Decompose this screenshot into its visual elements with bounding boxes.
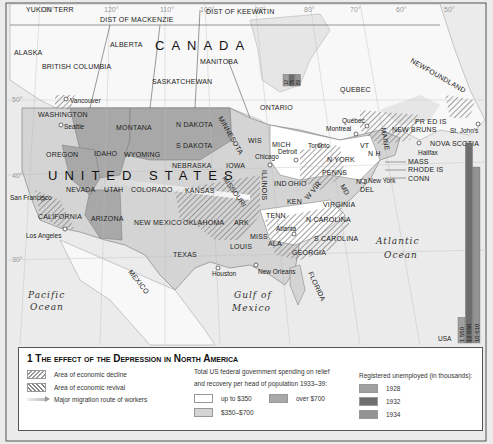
region-label: MANITOBA — [200, 58, 238, 65]
state-label: TENN — [266, 212, 286, 219]
state-label: WYOMING — [124, 151, 160, 158]
legend-unemployed-1932: 1932 — [359, 397, 400, 406]
legend-spending-mid: $350–$700 — [194, 408, 254, 417]
state-label: OREGON — [46, 151, 78, 158]
migration-arrow-icon — [27, 398, 46, 401]
state-label: MICH — [272, 141, 291, 148]
region-label: DIST OF KEEWATIN — [206, 8, 274, 15]
country-label-usa: UNITED STATES — [48, 168, 240, 183]
unemployment-bar-1934 — [473, 167, 480, 343]
region-label: ALBERTA — [110, 41, 143, 48]
state-label: PENNS — [322, 169, 347, 176]
legend-label: Area of economic revival — [54, 384, 125, 391]
state-label: WASHINGTON — [38, 111, 88, 118]
spending-title: and recovery per head of population 1933… — [194, 380, 327, 387]
country-label-canada: CANADA — [155, 38, 251, 53]
revival-hatch-icon — [27, 383, 46, 392]
state-label: MASS — [408, 158, 429, 165]
state-label: DEL — [360, 186, 374, 193]
legend-label: Area of economic decline — [54, 371, 127, 378]
state-label: ARK — [234, 219, 249, 226]
spending-swatch-mid — [194, 408, 213, 417]
state-label: IND — [274, 180, 287, 187]
state-label: OHIO — [288, 180, 307, 187]
state-label: GEORGIA — [292, 249, 326, 256]
state-label: N CAROLINA — [306, 216, 351, 223]
decline-hatch-icon — [27, 370, 46, 379]
city-label: St. John's — [450, 127, 479, 134]
region-label: NEW BRUNS — [392, 126, 437, 133]
legend-item-decline: Area of economic decline — [27, 370, 127, 379]
legend-label: up to $350 — [221, 395, 252, 402]
state-label: TEXAS — [173, 251, 197, 258]
city-label: Montreal — [326, 125, 352, 132]
ocean-label-atlantic: Ocean — [384, 250, 418, 260]
region-label: SASKATCHEWAN — [152, 78, 212, 85]
city-label: Atlanta — [276, 225, 297, 232]
spending-swatch-low — [194, 394, 213, 403]
state-label: ARIZONA — [91, 215, 124, 222]
state-label: N DAKOTA — [176, 121, 213, 128]
state-label: MISS — [250, 233, 268, 240]
ocean-label-gulf: Mexico — [231, 303, 271, 313]
state-label: UTAH — [104, 186, 123, 193]
unemployment-bar-label: 12 — [284, 79, 289, 85]
legend: 1 The effect of the Depression in North … — [18, 347, 483, 431]
state-label: VIRGINIA — [323, 201, 355, 208]
ocean-label-pacific: Pacific — [27, 290, 65, 300]
city-label: Houston — [212, 270, 237, 277]
state-label: IOWA — [226, 162, 245, 169]
state-label: VT — [360, 142, 370, 149]
lon-label: 70° — [350, 6, 361, 13]
city-label: Los Angeles — [26, 232, 62, 240]
lat-label: 50° — [12, 96, 23, 103]
state-label: CALIFORNIA — [38, 213, 82, 220]
state-label: MONTANA — [116, 124, 152, 131]
lon-label: 80° — [304, 6, 315, 13]
unemployed-swatch-1932 — [359, 397, 378, 406]
ocean-label-atlantic: Atlantic — [375, 236, 420, 246]
unemployment-bar-1932 — [466, 143, 473, 343]
lat-label: 30° — [12, 256, 23, 263]
region-label: DIST OF MACKENZIE — [100, 16, 174, 23]
usa-bars-country-label: USA — [438, 335, 452, 342]
lon-label: 120° — [104, 6, 119, 13]
legend-label: over $700 — [296, 395, 325, 402]
canada-unemployment-chart: 127589 — [283, 74, 301, 86]
spending-swatch-high — [269, 394, 288, 403]
city-label: Chicago — [255, 153, 279, 161]
state-label: N H — [368, 150, 381, 157]
unemployment-bar-label: 12 060 — [466, 323, 472, 342]
city-label: Detroit — [278, 148, 297, 155]
spending-title: Total US federal government spending on … — [194, 368, 330, 375]
region-label: BRITISH COLUMBIA — [42, 63, 111, 70]
legend-unemployed-1934: 1934 — [359, 410, 400, 419]
legend-title: 1 The effect of the Depression in North … — [27, 353, 238, 364]
state-label: N YORK — [327, 156, 355, 163]
city-label: Québec — [342, 117, 366, 125]
legend-label: $350–$700 — [221, 409, 254, 416]
legend-spending-high: over $700 — [269, 394, 325, 403]
unemployed-title: Registered unemployed (in thousands): — [359, 372, 472, 379]
region-label: YUKON TERR — [26, 6, 74, 13]
state-label: IDAHO — [94, 150, 118, 157]
unemployed-swatch-1928 — [359, 384, 378, 393]
city-label: New Orleans — [258, 268, 296, 275]
legend-label: 1934 — [386, 411, 400, 418]
state-label: LOUIS — [230, 243, 252, 250]
city-label: New York — [368, 177, 396, 184]
unemployment-bar-label: 10 610 — [474, 323, 480, 342]
legend-label: 1932 — [386, 398, 400, 405]
state-label: S DAKOTA — [176, 142, 213, 149]
legend-item-revival: Area of economic revival — [27, 383, 125, 392]
legend-label: 1928 — [386, 385, 400, 392]
legend-label: Major migration route of workers — [54, 396, 147, 403]
region-label: QUEBEC — [340, 86, 371, 94]
state-label: OKLAHOMA — [183, 219, 224, 226]
state-label: ILLINOIS — [261, 170, 268, 201]
city-label: Seattle — [64, 123, 85, 130]
state-label: RHODE IS — [408, 166, 444, 173]
state-label: KANSAS — [185, 187, 215, 194]
city-label: Toronto — [308, 142, 330, 149]
state-label: WIS — [248, 137, 262, 144]
